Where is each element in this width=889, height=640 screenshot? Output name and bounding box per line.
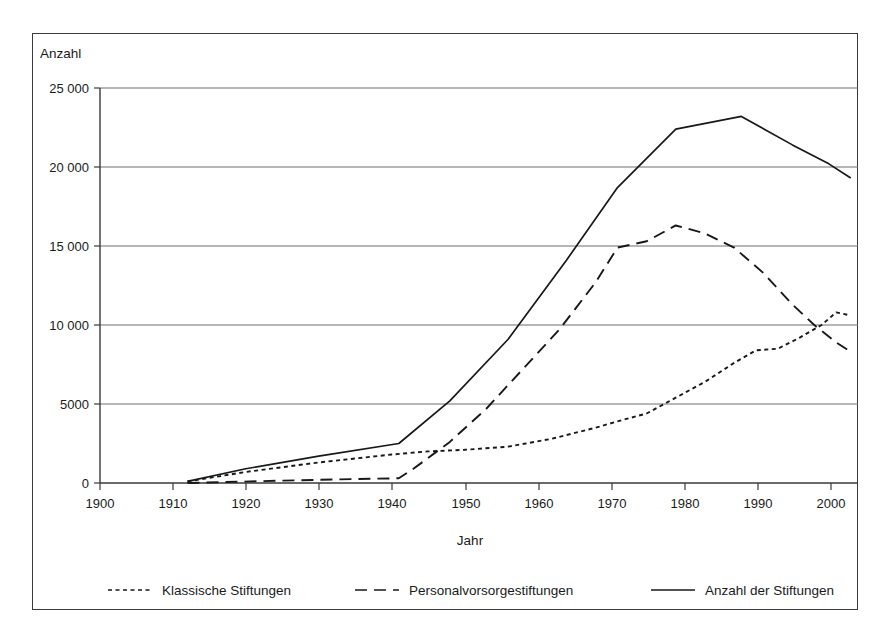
data-series	[187, 116, 850, 483]
x-tick-label-1960: 1960	[525, 496, 554, 511]
y-tick-label-5000: 5000	[60, 397, 89, 412]
x-tick-marks	[100, 483, 831, 490]
legend-label-anzahl: Anzahl der Stiftungen	[705, 583, 834, 598]
x-tick-label-1950: 1950	[452, 496, 481, 511]
y-tick-label-15000: 15 000	[49, 239, 89, 254]
legend-label-klassische: Klassische Stiftungen	[162, 583, 291, 598]
legend-label-personalvorsorge: Personalvorsorgestiftungen	[409, 583, 573, 598]
y-tick-labels: 0 5000 10 000 15 000 20 000 25 000	[49, 81, 89, 491]
y-tick-label-25000: 25 000	[49, 81, 89, 96]
line-chart: Anzahl 0 5000 10 000 15 000 20 000 25 00…	[0, 0, 889, 640]
series-klassische-stiftungen	[187, 312, 850, 481]
y-tick-label-10000: 10 000	[49, 318, 89, 333]
x-tick-label-1900: 1900	[86, 496, 115, 511]
x-axis-title: Jahr	[457, 533, 484, 548]
series-anzahl-der-stiftungen	[187, 116, 850, 481]
x-tick-labels: 1900 1910 1920 1930 1940 1950 1960 1970 …	[86, 496, 846, 511]
x-tick-label-1930: 1930	[305, 496, 334, 511]
chart-legend: Klassische Stiftungen Personalvorsorgest…	[108, 583, 834, 598]
y-tick-marks	[94, 88, 100, 483]
y-tick-label-0: 0	[82, 476, 89, 491]
x-tick-label-2000: 2000	[817, 496, 846, 511]
x-tick-label-1970: 1970	[598, 496, 627, 511]
x-tick-label-1920: 1920	[232, 496, 261, 511]
x-tick-label-1940: 1940	[378, 496, 407, 511]
x-tick-label-1910: 1910	[159, 496, 188, 511]
y-tick-label-20000: 20 000	[49, 160, 89, 175]
x-tick-label-1980: 1980	[671, 496, 700, 511]
y-axis-title: Anzahl	[40, 46, 81, 61]
x-tick-label-1990: 1990	[744, 496, 773, 511]
